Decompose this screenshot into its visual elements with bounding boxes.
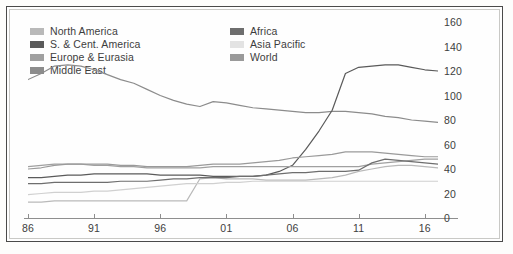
y-axis-labels: 160140120100806040200 <box>440 16 484 228</box>
x-tick-16 <box>425 214 426 219</box>
x-axis-label-86: 86 <box>22 222 34 234</box>
series-line-asia-pacific <box>28 181 438 194</box>
y-axis-label-60: 60 <box>444 139 456 151</box>
x-axis-label-01: 01 <box>220 222 232 234</box>
y-axis-label-160: 160 <box>444 16 462 28</box>
y-axis-label-0: 0 <box>444 212 450 224</box>
plot-area <box>28 22 438 218</box>
series-line-s-cent-america <box>28 65 438 178</box>
x-axis-labels: 86919601061116 <box>0 222 513 236</box>
x-tick-86 <box>28 214 29 219</box>
y-axis-label-80: 80 <box>444 114 456 126</box>
series-line-africa <box>28 159 438 184</box>
series-line-europe-eurasia <box>28 159 438 168</box>
line-chart-svg <box>28 22 438 218</box>
y-axis-label-40: 40 <box>444 163 456 175</box>
x-tick-01 <box>226 214 227 219</box>
y-axis-label-120: 120 <box>444 65 462 77</box>
x-tick-11 <box>359 214 360 219</box>
x-tick-96 <box>160 214 161 219</box>
series-line-middle-east <box>28 65 438 123</box>
x-axis-label-91: 91 <box>88 222 100 234</box>
series-line-north-america <box>28 165 438 202</box>
chart-container: North America S. & Cent. America Europe … <box>0 0 513 254</box>
y-axis-label-20: 20 <box>444 188 456 200</box>
y-axis-label-100: 100 <box>444 90 462 102</box>
x-axis-label-96: 96 <box>154 222 166 234</box>
x-axis-label-06: 06 <box>286 222 298 234</box>
x-axis-label-11: 11 <box>353 222 364 234</box>
x-tick-91 <box>94 214 95 219</box>
x-axis-label-16: 16 <box>419 222 431 234</box>
x-axis-line <box>24 218 458 219</box>
y-axis-label-140: 140 <box>444 41 462 53</box>
x-tick-06 <box>293 214 294 219</box>
